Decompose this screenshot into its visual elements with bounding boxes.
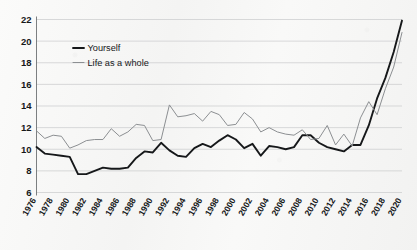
chart-legend: YourselfLife as a whole: [73, 43, 149, 68]
x-axis-tick-label: 1992: [153, 196, 171, 218]
x-axis-tick-label: 1996: [186, 196, 204, 218]
x-axis-tick-label: 2016: [352, 196, 370, 218]
x-axis-tick-label: 2008: [286, 196, 304, 218]
x-axis-tick-label: 2012: [319, 196, 337, 218]
x-axis-tick-label: 2014: [336, 196, 354, 218]
x-axis-tick-label: 1988: [120, 196, 138, 218]
x-axis-tick-label: 2018: [369, 196, 387, 218]
y-axis-tick-labels: 6810121416182022: [21, 14, 32, 198]
y-axis-tick-label: 10: [21, 144, 32, 155]
legend-label: Yourself: [88, 43, 121, 53]
chart-page: 6810121416182022 19761978198019821984198…: [0, 0, 417, 250]
y-axis-tick-label: 12: [21, 122, 32, 133]
x-axis-tick-label: 2002: [236, 196, 254, 218]
x-axis-tick-label: 1990: [136, 196, 154, 218]
x-axis-tick-label: 1998: [203, 196, 221, 218]
x-axis-tick-label: 2000: [219, 196, 237, 218]
y-axis-tick-label: 22: [21, 14, 32, 25]
line-chart: 6810121416182022 19761978198019821984198…: [0, 0, 417, 250]
x-axis-tick-label: 1982: [70, 196, 88, 218]
legend-label: Life as a whole: [88, 58, 149, 68]
x-axis-tick-label: 2020: [386, 196, 404, 218]
x-axis-tick-labels: 1976197819801982198419861988199019921994…: [20, 196, 404, 218]
x-axis-tick-label: 1976: [20, 196, 38, 218]
x-axis-tick-label: 2006: [269, 196, 287, 218]
x-axis-tick-label: 1984: [86, 196, 104, 218]
y-axis-tick-label: 16: [21, 79, 32, 90]
x-axis-tick-label: 1986: [103, 196, 121, 218]
x-axis-tick-label: 1994: [170, 196, 188, 218]
y-axis-tick-label: 18: [21, 57, 32, 68]
y-axis-tick-label: 14: [21, 100, 32, 111]
x-axis-tick-label: 2010: [302, 196, 320, 218]
x-axis-tick-label: 2004: [253, 196, 271, 218]
y-axis-tick-label: 20: [21, 36, 32, 47]
x-axis-tick-label: 1980: [53, 196, 71, 218]
x-axis-tick-label: 1978: [37, 196, 55, 218]
y-axis-tick-label: 8: [26, 165, 31, 176]
